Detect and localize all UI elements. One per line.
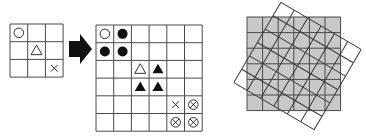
- cross-icon: [51, 65, 58, 72]
- filled-circle-icon: [118, 47, 128, 57]
- open-circle-icon: [100, 29, 110, 39]
- large-grid-6x6: [96, 25, 202, 131]
- arrow-shaft: [69, 41, 81, 57]
- filled-circle-icon: [100, 47, 110, 57]
- arrow-head: [80, 34, 92, 64]
- filled-circle-icon: [118, 29, 128, 39]
- cross-icon: [172, 101, 179, 108]
- circled-cross-icon: [189, 118, 199, 128]
- circled-cross-icon: [171, 118, 181, 128]
- filled-triangle-icon: [152, 64, 163, 74]
- open-circle-icon: [14, 28, 24, 38]
- open-triangle-icon: [31, 45, 42, 55]
- diagram-canvas: [0, 0, 366, 136]
- filled-triangle-icon: [135, 81, 146, 91]
- filled-triangle-icon: [152, 81, 163, 91]
- circled-cross-icon: [189, 100, 199, 110]
- open-triangle-icon: [135, 64, 146, 74]
- small-grid-3x3: [10, 24, 63, 77]
- right-arrow-icon: [69, 34, 92, 64]
